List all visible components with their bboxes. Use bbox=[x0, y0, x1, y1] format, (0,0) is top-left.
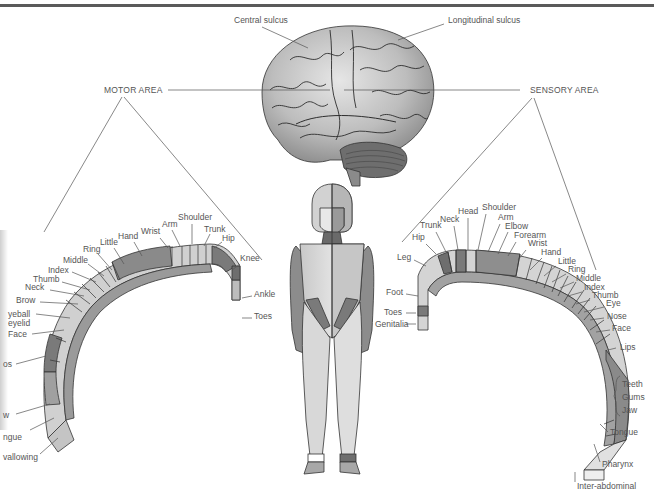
motor-label-tongue: ngue bbox=[3, 432, 22, 442]
sensory-label-gums: Gums bbox=[622, 392, 645, 402]
brain-illustration bbox=[262, 26, 434, 186]
sensory-area-label: SENSORY AREA bbox=[530, 85, 599, 95]
central-sulcus-label: Central sulcus bbox=[234, 15, 288, 25]
sensory-label-foot: Foot bbox=[386, 287, 404, 297]
motor-label-toes: Toes bbox=[254, 311, 272, 321]
motor-strip bbox=[44, 244, 240, 452]
motor-label-ring: Ring bbox=[83, 244, 101, 254]
motor-labels: Toes Ankle Knee Hip Trunk Shoulder Arm W… bbox=[2, 212, 276, 462]
motor-label-shoulder: Shoulder bbox=[178, 212, 212, 222]
sensory-label-jaw: Jaw bbox=[622, 405, 638, 415]
motor-label-ankle: Ankle bbox=[254, 289, 276, 299]
homunculus-body-figure bbox=[290, 184, 374, 474]
motor-label-middle: Middle bbox=[63, 255, 88, 265]
sensory-label-toes: Toes bbox=[384, 307, 402, 317]
motor-label-hand: Hand bbox=[118, 231, 139, 241]
sensory-label-teeth: Teeth bbox=[622, 379, 643, 389]
motor-label-swallowing: vallowing bbox=[3, 452, 38, 462]
motor-label-arm: Arm bbox=[162, 219, 178, 229]
motor-label-knee: Knee bbox=[240, 253, 260, 263]
sensory-label-trunk: Trunk bbox=[420, 220, 442, 230]
sensory-label-nose: Nose bbox=[607, 311, 627, 321]
sensory-label-pharynx: Pharynx bbox=[602, 459, 634, 469]
sensory-label-eye: Eye bbox=[606, 298, 621, 308]
motor-label-hip: Hip bbox=[222, 233, 235, 243]
sensory-label-face: Face bbox=[612, 323, 631, 333]
motor-label-lips: os bbox=[3, 359, 12, 369]
sensory-label-shoulder: Shoulder bbox=[482, 202, 516, 212]
motor-label-neck: Neck bbox=[25, 282, 45, 292]
motor-label-trunk: Trunk bbox=[204, 224, 226, 234]
motor-label-eyelid: eyelid bbox=[8, 318, 30, 328]
motor-label-wrist: Wrist bbox=[141, 226, 161, 236]
sensory-label-leg: Leg bbox=[397, 252, 411, 262]
motor-label-brow: Brow bbox=[16, 295, 36, 305]
sensory-label-lips: Lips bbox=[620, 342, 636, 352]
motor-area-label: MOTOR AREA bbox=[104, 85, 163, 95]
motor-label-jaw: w bbox=[2, 410, 10, 420]
sensory-label-tongue: Tongue bbox=[610, 427, 638, 437]
homunculus-diagram: Central sulcus Longitudinal sulcus MOTOR… bbox=[0, 0, 654, 496]
sensory-label-genitalia: Genitalia bbox=[375, 319, 409, 329]
sensory-label-inter-abdominal: Inter-abdominal bbox=[577, 481, 636, 491]
longitudinal-sulcus-label: Longitudinal sulcus bbox=[448, 15, 520, 25]
sensory-label-head: Head bbox=[458, 206, 479, 216]
motor-label-face: Face bbox=[8, 329, 27, 339]
motor-label-little: Little bbox=[100, 237, 118, 247]
sensory-label-hip: Hip bbox=[412, 232, 425, 242]
